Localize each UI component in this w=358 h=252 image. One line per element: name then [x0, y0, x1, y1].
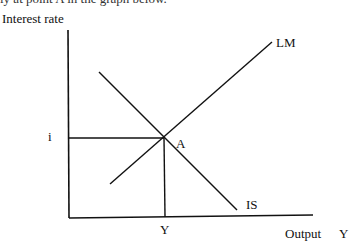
equilibrium-point-label: A — [176, 136, 185, 152]
y-axis-label: Interest rate — [2, 11, 64, 27]
x-axis-label: Output — [285, 226, 321, 242]
is-label: IS — [246, 197, 258, 213]
lm-label: LM — [276, 35, 296, 51]
y-axis — [68, 30, 69, 218]
interest-rate-tick-label: i — [48, 129, 52, 145]
x-axis — [69, 215, 313, 218]
lm-curve — [110, 42, 272, 184]
x-axis-symbol: Y — [339, 226, 348, 242]
output-tick-label: Y — [160, 222, 169, 238]
is-curve — [99, 72, 237, 210]
output-guide-line — [164, 138, 165, 217]
is-lm-diagram — [0, 0, 358, 252]
